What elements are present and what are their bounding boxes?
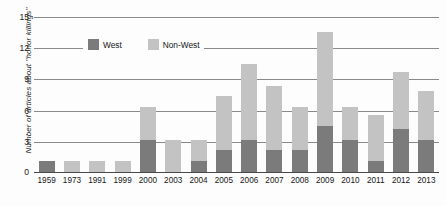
bar-segment-west [140,140,156,172]
bar-segment-non-west [216,96,232,150]
x-tick-label: 2008 [287,176,312,185]
bar-slot [110,10,135,172]
x-axis-line: 0 [34,172,439,173]
bar-segment-non-west [418,91,434,140]
y-tick-label-12: 12 [5,44,29,53]
bar-slot [363,10,388,172]
bar-segment-west [418,140,434,172]
x-tick-label: 2005 [211,176,236,185]
bar-segment-non-west [368,115,384,161]
legend-item-non-west: Non-West [148,39,200,50]
y-tick-label-0: 0 [5,168,29,177]
bar-segment-non-west [342,107,358,139]
x-tick-label: 2009 [312,176,337,185]
y-tick-label-15: 15 [5,13,29,22]
bar-segment-non-west [165,140,181,172]
x-tick-label: 2010 [338,176,363,185]
x-tick-label: 2013 [414,176,439,185]
bar-slot [161,10,186,172]
bar-segment-west [393,129,409,172]
x-tick-label: 1959 [34,176,59,185]
x-tick-label: 2006 [237,176,262,185]
bar-segment-non-west [317,32,333,126]
bar-segment-west [368,161,384,172]
legend-label-west: West [103,40,122,50]
stacked-bar[interactable] [191,140,207,172]
stacked-bar[interactable] [266,86,282,172]
bar-slot [338,10,363,172]
bar-segment-west [292,150,308,172]
bar-segment-west [266,150,282,172]
y-tick-label-3: 3 [5,138,29,147]
bar-slot [186,10,211,172]
stacked-bar[interactable] [140,107,156,172]
bar-segment-west [191,161,207,172]
non-west-swatch-icon [148,39,159,50]
bar-slot [262,10,287,172]
bar-segment-non-west [115,161,131,172]
bar-slot [287,10,312,172]
bar-segment-west [241,140,257,172]
west-swatch-icon [88,39,99,50]
bar-slot [135,10,160,172]
x-tick-label: 2012 [388,176,413,185]
stacked-bar[interactable] [89,161,105,172]
stacked-bar[interactable] [64,161,80,172]
y-tick-label-9: 9 [5,75,29,84]
stacked-bar[interactable] [418,91,434,172]
bar-segment-non-west [191,140,207,162]
bar-segment-non-west [89,161,105,172]
bar-slot [237,10,262,172]
x-tick-label: 2003 [161,176,186,185]
bar-segment-west [216,150,232,172]
x-tick-label: 2004 [186,176,211,185]
stacked-bar[interactable] [165,140,181,172]
bar-segment-non-west [140,107,156,139]
bar-slot [211,10,236,172]
bar-segment-non-west [64,161,80,172]
stacked-bar[interactable] [393,72,409,172]
x-tick-label: 2000 [135,176,160,185]
x-tick-label: 2007 [262,176,287,185]
bar-slot [388,10,413,172]
stacked-bar[interactable] [39,161,55,172]
x-axis-labels: 1959197319911999200020032004200520062007… [34,176,439,185]
bar-segment-west [342,140,358,172]
bar-slot [34,10,59,172]
plot-area: 15 12 9 6 3 0 [34,10,439,173]
x-tick-label: 1991 [85,176,110,185]
legend-item-west: West [88,39,122,50]
stacked-bar[interactable] [317,32,333,172]
bar-segment-non-west [292,107,308,150]
bar-slot [414,10,439,172]
bar-slot [85,10,110,172]
stacked-bar[interactable] [342,107,358,172]
bar-segment-west [39,161,55,172]
bar-slot [312,10,337,172]
x-tick-label: 1999 [110,176,135,185]
stacked-bar[interactable] [292,107,308,172]
bar-segment-non-west [266,86,282,151]
stacked-bar[interactable] [241,64,257,172]
x-tick-label: 2011 [363,176,388,185]
bars-container [34,10,439,172]
stacked-bar[interactable] [368,115,384,172]
stacked-bar-chart: Number of articles about "honor killings… [0,0,447,206]
chart-legend: West Non-West [83,38,204,51]
bar-segment-non-west [241,64,257,140]
stacked-bar[interactable] [216,96,232,172]
bar-segment-west [317,126,333,172]
legend-label-non-west: Non-West [163,40,200,50]
x-tick-label: 1973 [59,176,84,185]
bar-segment-non-west [393,72,409,129]
stacked-bar[interactable] [115,161,131,172]
bar-slot [59,10,84,172]
y-tick-label-6: 6 [5,107,29,116]
